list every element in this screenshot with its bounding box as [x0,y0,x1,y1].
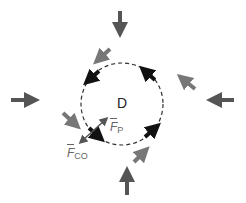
force-co-symbol: F [67,146,74,160]
force-p-subscript: P [117,125,123,135]
force-co-label: FCO [67,146,88,161]
region-label: D [117,95,127,111]
inner-arrow-top-right [145,71,155,80]
inner-arrow-top-left [89,71,99,80]
diag-arrow-right [183,79,195,89]
force-co-subscript: CO [74,151,88,161]
force-p-label: FP [110,120,123,135]
diag-arrow-top-left [99,49,110,59]
inner-arrow-bottom-right [145,128,155,137]
diag-arrow-left [63,113,75,124]
force-arrow-p [94,120,105,130]
force-p-symbol: F [110,120,117,134]
force-arrow-co [82,130,94,141]
diag-arrow-bottom [134,152,144,162]
